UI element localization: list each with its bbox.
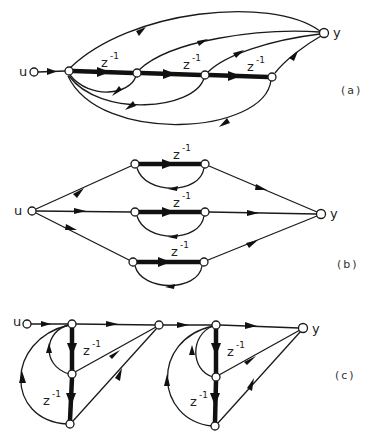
subfigure-label: (b) — [337, 258, 359, 271]
feedback-mid — [137, 216, 204, 236]
node-mid-right — [201, 208, 209, 216]
arrow-icon — [41, 321, 51, 327]
feedback-bot — [135, 266, 202, 286]
arrow-icon — [189, 345, 195, 355]
arrow-icon — [165, 284, 175, 289]
node-a2 — [68, 370, 76, 378]
node-b3 — [211, 422, 219, 430]
feedback-a3-to-a1 — [21, 325, 69, 424]
delay-label: z — [183, 57, 190, 72]
edge-n4-to-y — [275, 36, 321, 73]
arrow-icon — [163, 69, 176, 79]
node-y — [299, 324, 308, 333]
delay-exponent: -1 — [52, 389, 61, 399]
arrow-icon — [197, 39, 208, 46]
node-2 — [133, 69, 141, 77]
node-u — [30, 68, 38, 76]
input-label: u — [13, 314, 21, 329]
delay-exponent: -1 — [110, 51, 119, 61]
delay-label: z — [101, 55, 108, 70]
feedback-b3-to-b1 — [167, 326, 213, 426]
delay-exponent: -1 — [92, 339, 101, 349]
node-a3 — [66, 420, 74, 428]
arrow-icon — [106, 321, 118, 327]
node-a4 — [155, 321, 163, 329]
edge-n2-to-y — [139, 31, 320, 70]
delay-exponent: -1 — [199, 390, 208, 400]
feedback-n2-to-n1 — [70, 75, 136, 92]
node-b2 — [212, 373, 220, 381]
delay-exponent: -1 — [180, 240, 189, 250]
edge-bot-to-y — [208, 216, 317, 260]
arrow-icon — [109, 350, 120, 359]
signal-flow-graph-figure: u y z -1 z -1 z -1 (a) — [0, 0, 376, 439]
delay-label: z — [173, 147, 180, 162]
arrow-icon — [125, 101, 136, 110]
arrow-icon — [255, 184, 267, 190]
input-label: u — [14, 203, 22, 218]
edge-u-to-top — [36, 166, 131, 209]
node-1 — [65, 67, 73, 75]
node-b1 — [212, 321, 220, 329]
delay-exponent: -1 — [182, 191, 191, 201]
subfigure-c: u y z -1 z -1 z -1 z -1 (c) — [13, 314, 356, 430]
node-u — [28, 207, 36, 215]
delay-exponent: -1 — [182, 143, 191, 153]
delay-exponent: -1 — [192, 53, 201, 63]
node-mid-left — [131, 208, 139, 216]
node-u — [23, 320, 31, 328]
arrow-icon — [158, 257, 171, 267]
feedback-top — [137, 168, 204, 188]
arrow-icon — [19, 371, 26, 383]
subfigure-a: u y z -1 z -1 z -1 (a) — [19, 12, 362, 127]
node-bot-left — [129, 258, 137, 266]
edge-b1-to-y — [220, 325, 299, 328]
feedback-b2-to-b1 — [196, 326, 213, 377]
delay-label: z — [227, 344, 234, 359]
output-label: y — [333, 25, 341, 40]
delay-label: z — [247, 59, 254, 74]
delay-label: z — [190, 394, 197, 409]
arrow-icon — [210, 393, 220, 406]
subfigure-label: (c) — [335, 369, 356, 382]
edge-n3-to-y — [208, 34, 320, 72]
arrow-icon — [47, 68, 57, 75]
output-label: y — [312, 321, 320, 336]
arrow-icon — [247, 210, 259, 216]
edge-u-to-bot — [36, 213, 129, 260]
node-4 — [268, 73, 276, 81]
node-3 — [201, 71, 209, 79]
feedback-n4-to-n1 — [68, 76, 271, 125]
subfigure-label: (a) — [341, 84, 362, 97]
arrow-icon — [228, 71, 241, 81]
output-label: y — [330, 206, 338, 221]
arrow-icon — [65, 224, 77, 230]
arrow-icon — [46, 343, 52, 353]
delay-label: z — [43, 393, 50, 408]
edge-a3-to-a4 — [73, 328, 157, 421]
node-y — [320, 29, 329, 38]
arrow-icon — [66, 393, 76, 406]
arrow-icon — [67, 343, 77, 356]
arrow-icon — [289, 51, 298, 61]
arrow-icon — [74, 208, 86, 214]
delay-exponent: -1 — [256, 55, 265, 65]
delay-label: z — [171, 244, 178, 259]
delay-label: z — [83, 343, 90, 358]
delay-exponent: -1 — [236, 340, 245, 350]
node-y — [317, 210, 326, 219]
node-a1 — [68, 320, 76, 328]
arrow-icon — [233, 50, 244, 58]
arrow-icon — [246, 240, 258, 248]
arrow-icon — [245, 322, 257, 329]
feedback-a2-to-a1 — [49, 325, 69, 374]
node-top-left — [131, 160, 139, 168]
delay-label: z — [173, 195, 180, 210]
arrow-icon — [211, 343, 221, 356]
edge-mid-to-y — [209, 212, 316, 214]
node-top-right — [201, 160, 209, 168]
subfigure-b: u y z -1 z -1 z -1 (b) — [14, 143, 359, 289]
node-bot-right — [200, 258, 208, 266]
input-label: u — [19, 64, 27, 79]
arrow-icon — [177, 322, 189, 328]
